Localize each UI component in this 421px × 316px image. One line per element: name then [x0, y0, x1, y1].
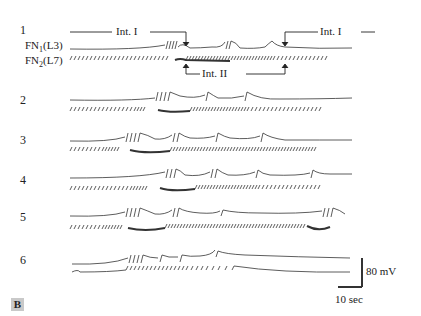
scale-bar-voltage: [361, 258, 363, 287]
row-3-traces: [70, 133, 352, 152]
int1-left-label: Int. I: [114, 26, 139, 37]
row-6-traces: [72, 250, 350, 272]
int1-right-label: Int. I: [318, 26, 343, 37]
scale-time-label: 10 sec: [335, 293, 363, 305]
row-1-traces: [70, 41, 352, 61]
row-5-traces: [70, 208, 345, 230]
scale-voltage-label: 80 mV: [366, 265, 396, 277]
trace-plot: [0, 0, 421, 316]
int2-label: Int. II: [200, 68, 229, 79]
row-4-traces: [70, 169, 352, 190]
scale-bar-time: [338, 286, 362, 288]
panel-label: B: [11, 298, 24, 311]
row-2-traces: [70, 92, 352, 112]
